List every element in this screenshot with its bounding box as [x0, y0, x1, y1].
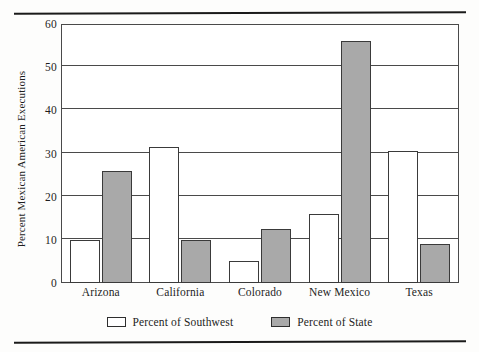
bottom-divider-rule: [14, 340, 466, 343]
chart-page: Percent Mexican American Executions 0102…: [0, 0, 479, 352]
x-axis-tick-labels: ArizonaCaliforniaColoradoNew MexicoTexas: [61, 286, 459, 306]
legend-label: Percent of State: [297, 316, 372, 328]
y-tick-label-30: 30: [13, 148, 57, 160]
chart-legend: Percent of SouthwestPercent of State: [0, 316, 479, 328]
x-tick-label-colorado: Colorado: [238, 286, 282, 298]
y-axis-tick-labels: 0102030405060: [9, 24, 57, 283]
legend-label: Percent of Southwest: [133, 316, 234, 328]
gridline-10: [62, 238, 458, 239]
legend-item: Percent of State: [271, 316, 372, 328]
y-tick-label-20: 20: [13, 191, 57, 203]
x-tick-label-california: California: [156, 286, 204, 298]
gray-swatch: [271, 317, 290, 327]
white-swatch: [107, 317, 126, 327]
gridline-20: [62, 195, 458, 196]
y-tick-label-60: 60: [13, 18, 57, 30]
y-tick-label-10: 10: [13, 234, 57, 246]
gridline-50: [62, 65, 458, 66]
gridline-30: [62, 152, 458, 153]
x-tick-label-new-mexico: New Mexico: [309, 286, 370, 298]
y-tick-label-0: 0: [13, 277, 57, 289]
gridline-40: [62, 108, 458, 109]
top-divider-rule: [14, 11, 466, 14]
y-tick-label-40: 40: [13, 104, 57, 116]
y-tick-label-50: 50: [13, 61, 57, 73]
x-tick-label-arizona: Arizona: [82, 286, 120, 298]
x-tick-label-texas: Texas: [405, 286, 432, 298]
legend-item: Percent of Southwest: [107, 316, 234, 328]
plot-area: [61, 24, 459, 283]
